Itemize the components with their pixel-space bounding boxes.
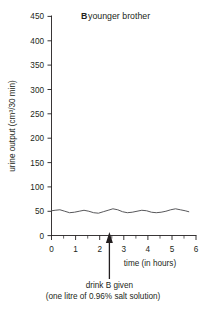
x-tick-label: 6 bbox=[194, 245, 199, 254]
x-tick-label: 1 bbox=[73, 245, 78, 254]
y-axis-tick-labels: 450 400 350 300 250 200 150 100 50 0 bbox=[30, 12, 44, 240]
x-tick-label: 2 bbox=[97, 245, 102, 254]
chart-figure: B younger brother 450 400 350 300 250 20… bbox=[0, 0, 206, 312]
chart-title-rest: younger brother bbox=[88, 11, 150, 21]
x-tick-label: 5 bbox=[170, 245, 175, 254]
y-axis-ticks bbox=[48, 16, 52, 235]
x-tick-label: 0 bbox=[49, 245, 54, 254]
chart-title-bold-prefix: B bbox=[81, 11, 87, 21]
data-series-line bbox=[52, 209, 189, 213]
x-axis-title: time (in hours) bbox=[124, 259, 177, 268]
y-tick-label: 100 bbox=[30, 183, 44, 192]
y-tick-label: 150 bbox=[30, 159, 44, 168]
y-tick-label: 200 bbox=[30, 134, 44, 143]
x-axis-ticks bbox=[52, 236, 197, 241]
annotation-line-2: (one litre of 0.96% salt solution) bbox=[46, 292, 161, 301]
urine-output-line-chart: B younger brother 450 400 350 300 250 20… bbox=[0, 0, 206, 312]
y-tick-label: 400 bbox=[30, 37, 44, 46]
y-tick-label: 0 bbox=[39, 232, 44, 241]
y-tick-label: 50 bbox=[35, 207, 45, 216]
x-tick-label: 3 bbox=[122, 245, 127, 254]
x-axis-tick-labels: 0 1 2 3 4 5 6 bbox=[49, 245, 199, 254]
y-tick-label: 250 bbox=[30, 110, 44, 119]
annotation-line-1: drink B given bbox=[86, 281, 134, 290]
y-tick-label: 350 bbox=[30, 61, 44, 70]
x-tick-label: 4 bbox=[146, 245, 151, 254]
drink-given-arrow bbox=[106, 232, 113, 279]
y-tick-label: 300 bbox=[30, 86, 44, 95]
y-axis-title: urine output (cm³/30 min) bbox=[8, 80, 17, 172]
y-tick-label: 450 bbox=[30, 12, 44, 21]
